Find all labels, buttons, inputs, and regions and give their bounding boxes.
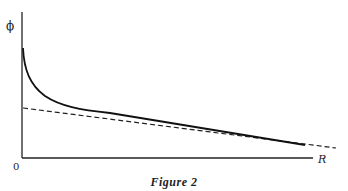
figure-plot: ϕ 0 R <box>0 0 348 191</box>
solid-curve <box>23 48 305 145</box>
y-axis-label: ϕ <box>6 19 14 33</box>
x-axis-label: R <box>317 153 326 166</box>
origin-label: 0 <box>13 161 19 172</box>
figure-caption: Figure 2 <box>0 175 348 190</box>
